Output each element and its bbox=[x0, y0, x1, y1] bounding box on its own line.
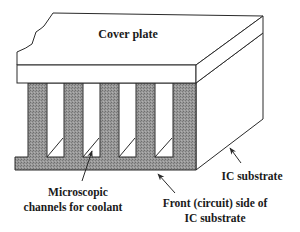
channel-2 bbox=[83, 83, 100, 157]
front-side-label-line1: Front (circuit) side of bbox=[163, 197, 268, 210]
channel-4 bbox=[155, 83, 173, 157]
cover-plate-label: Cover plate bbox=[98, 27, 158, 41]
ic-substrate-label: IC substrate bbox=[221, 170, 282, 182]
front-side-label-line2: IC substrate bbox=[184, 212, 245, 224]
front-side-arrow bbox=[158, 174, 175, 193]
channel-3 bbox=[119, 83, 136, 157]
microchannel-diagram: Cover plate IC substrate Microscopic cha… bbox=[0, 0, 300, 232]
channel-1 bbox=[47, 83, 64, 157]
ic-substrate-arrow bbox=[230, 148, 241, 163]
channels-label-line2: channels for coolant bbox=[24, 201, 123, 213]
channels-label-line1: Microscopic bbox=[48, 186, 108, 199]
